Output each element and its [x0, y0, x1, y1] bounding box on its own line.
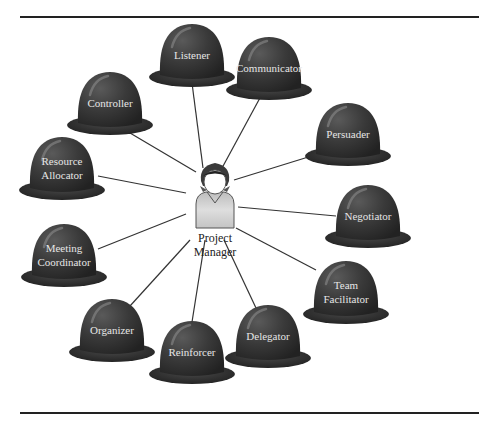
role-node-resource-allocator: ResourceAllocator: [19, 137, 105, 200]
diagram-canvas: ListenerCommunicatorPersuaderNegotiatorT…: [0, 0, 479, 424]
role-node-team-facilitator: TeamFacilitator: [303, 261, 389, 324]
connector-controller: [130, 133, 196, 172]
role-label: Coordinator: [37, 256, 90, 268]
role-node-meeting-coordinator: MeetingCoordinator: [21, 224, 107, 287]
project-manager-node: Project Manager: [194, 163, 237, 259]
connector-persuader: [234, 154, 318, 180]
connector-organizer: [130, 240, 190, 306]
role-node-persuader: Persuader: [305, 103, 391, 166]
center-label-line-1: Project: [198, 231, 233, 245]
role-label: Reinforcer: [168, 346, 215, 358]
role-label: Team: [334, 279, 359, 291]
role-label: Facilitator: [323, 293, 369, 305]
role-node-negotiator: Negotiator: [325, 185, 411, 248]
role-node-communicator: Communicator: [226, 37, 312, 100]
connector-meeting-coordinator: [98, 214, 186, 249]
role-label: Organizer: [90, 324, 134, 336]
role-node-organizer: Organizer: [69, 299, 155, 362]
role-label: Meeting: [46, 242, 83, 254]
role-label: Allocator: [41, 169, 83, 181]
role-label: Listener: [174, 49, 210, 61]
role-label: Negotiator: [344, 210, 391, 222]
role-label: Delegator: [246, 330, 290, 342]
role-label: Resource: [42, 155, 83, 167]
role-diagram: ListenerCommunicatorPersuaderNegotiatorT…: [0, 0, 479, 424]
role-node-listener: Listener: [149, 24, 235, 87]
role-label: Controller: [87, 97, 133, 109]
connector-negotiator: [238, 207, 336, 216]
role-node-controller: Controller: [67, 72, 153, 135]
role-label: Communicator: [236, 62, 302, 74]
role-label: Persuader: [326, 128, 370, 140]
center-label-line-2: Manager: [194, 245, 237, 259]
person-icon: [196, 163, 234, 228]
connector-team-facilitator: [236, 228, 316, 270]
connector-resource-allocator: [98, 176, 186, 193]
role-node-delegator: Delegator: [225, 305, 311, 368]
connector-communicator: [222, 96, 261, 168]
role-node-reinforcer: Reinforcer: [149, 321, 235, 384]
connector-listener: [192, 83, 203, 168]
